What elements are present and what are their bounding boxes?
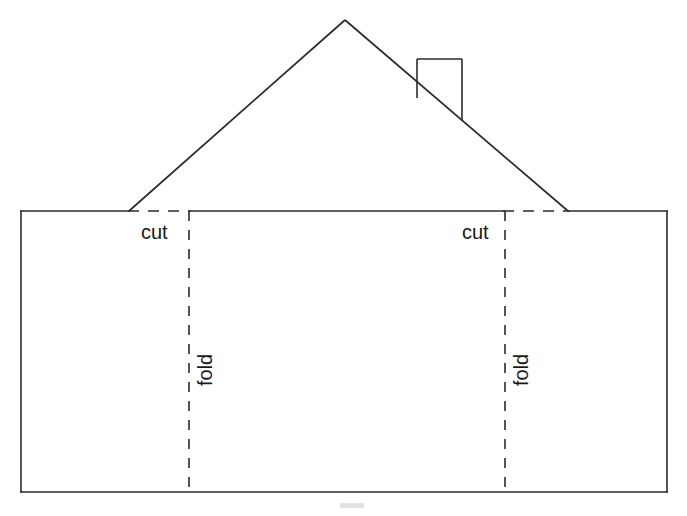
house-body-rectangle — [21, 211, 667, 492]
cut-label-right: cut — [462, 221, 489, 243]
roof-left-slope — [129, 20, 345, 211]
roof-right-slope — [345, 20, 568, 211]
chimney-rectangle — [417, 59, 462, 121]
cut-label-left: cut — [141, 221, 168, 243]
fold-lines — [189, 211, 505, 492]
roof-triangle — [129, 20, 568, 211]
house-template-canvas: cut cut fold fold — [0, 0, 687, 516]
house-template-diagram: cut cut fold fold — [0, 0, 687, 516]
bottom-gray-mark — [340, 503, 364, 508]
fold-label-left: fold — [194, 354, 216, 386]
fold-label-right: fold — [510, 354, 532, 386]
